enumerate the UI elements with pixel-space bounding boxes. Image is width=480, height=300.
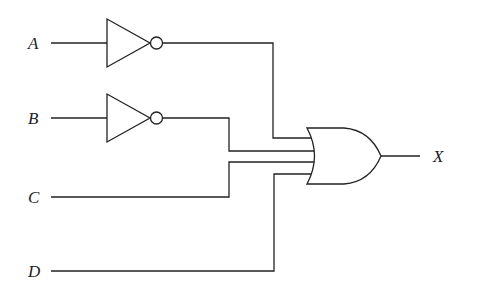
wire-b [51,118,314,151]
logic-circuit-diagram: A B C D X [0,0,480,300]
output-label-x: X [432,147,444,166]
not-gate-a [107,19,163,67]
or-gate [307,128,381,184]
input-label-c: C [28,188,40,207]
input-label-d: D [27,262,41,281]
input-label-a: A [27,34,39,53]
not-gate-b [107,94,163,142]
input-label-b: B [28,109,39,128]
wire-a [51,43,312,138]
wire-d [51,174,312,271]
